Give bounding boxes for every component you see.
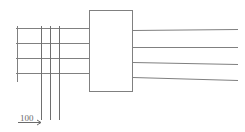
outgoing-cable-lines: [133, 30, 238, 81]
technical-drawing-canvas: 100: [0, 0, 245, 132]
outgoing-line-4: [133, 78, 238, 81]
outgoing-line-1: [133, 30, 238, 31]
dimension-100-label: 100: [20, 113, 34, 123]
dimension-100: 100: [18, 113, 41, 126]
equipment-box: [90, 11, 133, 92]
incoming-cable-lines: [16, 29, 89, 74]
schematic-svg: 100: [0, 0, 245, 132]
outgoing-line-3: [133, 63, 238, 65]
